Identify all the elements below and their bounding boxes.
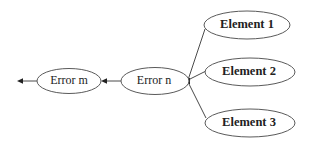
edge-element3-to-error-n <box>188 82 206 118</box>
node-error-n-label: Error n <box>137 73 171 87</box>
node-element-1-label: Element 1 <box>220 17 274 31</box>
edge-error-m-outgoing <box>17 78 37 83</box>
node-error-n[interactable]: Error n <box>121 68 189 95</box>
arrowhead-icon <box>101 78 107 83</box>
node-element-3[interactable]: Element 3 <box>205 109 295 137</box>
node-element-3-label: Element 3 <box>222 115 276 129</box>
diagram-canvas: Error m Error n Element 1 Element 2 Elem… <box>0 0 311 143</box>
node-element-2-label: Element 2 <box>222 64 276 78</box>
node-element-2[interactable]: Element 2 <box>205 58 295 86</box>
node-error-m[interactable]: Error m <box>37 69 101 94</box>
node-element-1[interactable]: Element 1 <box>204 11 290 39</box>
arrowhead-icon <box>17 78 23 83</box>
edge-error-n-to-error-m <box>101 78 121 83</box>
node-error-m-label: Error m <box>50 73 88 87</box>
